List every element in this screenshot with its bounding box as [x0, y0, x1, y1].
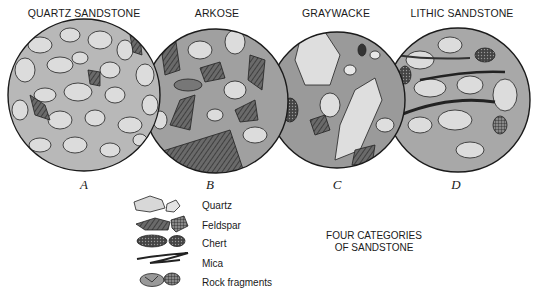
sample-title-b: ARKOSE — [195, 7, 239, 19]
sample-title-a: QUARTZ SANDSTONE — [28, 7, 141, 19]
sample-circle-a — [8, 19, 160, 171]
quartz-grain-icon — [134, 196, 180, 212]
legend-label-rock-fragments: Rock fragments — [202, 277, 272, 288]
feldspar-grain-icon — [136, 216, 188, 232]
mica-flake-icon — [137, 253, 188, 263]
sample-letter-d: D — [451, 177, 460, 193]
sample-letter-a: A — [80, 177, 88, 193]
sample-letter-b: B — [206, 177, 214, 193]
rock-fragment-icon — [140, 273, 180, 287]
caption-line-1: FOUR CATEGORIES — [314, 230, 434, 242]
chert-grain-icon — [137, 235, 185, 247]
diagram-caption: FOUR CATEGORIES OF SANDSTONE — [314, 230, 434, 254]
sample-circle-c — [269, 32, 405, 168]
sandstone-diagram — [0, 0, 538, 295]
sample-circle-d — [386, 28, 530, 172]
legend-label-chert: Chert — [202, 238, 226, 249]
legend-label-quartz: Quartz — [202, 200, 232, 211]
sample-title-d: LITHIC SANDSTONE — [411, 7, 514, 19]
legend-label-mica: Mica — [202, 258, 223, 269]
legend-icons — [134, 196, 188, 287]
sample-title-c: GRAYWACKE — [302, 7, 370, 19]
sample-circle-b — [144, 29, 288, 185]
sample-letter-c: C — [333, 177, 342, 193]
caption-line-2: OF SANDSTONE — [314, 242, 434, 254]
legend-label-feldspar: Feldspar — [202, 220, 241, 231]
